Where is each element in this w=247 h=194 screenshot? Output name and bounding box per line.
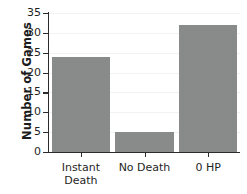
y-tick-label: 35 <box>17 7 41 18</box>
x-tick-mark <box>145 152 146 157</box>
y-tick-label: 10 <box>17 106 41 117</box>
bar <box>179 25 238 152</box>
y-tick-mark <box>43 132 48 133</box>
x-tick-label: No Death <box>113 161 177 174</box>
y-tick-label: 20 <box>17 67 41 78</box>
y-tick-mark <box>43 13 48 14</box>
x-tick-mark <box>81 152 82 157</box>
y-tick-mark <box>43 73 48 74</box>
y-tick-label: 30 <box>17 27 41 38</box>
plot-area <box>49 13 240 152</box>
y-tick-label: 0 <box>17 146 41 157</box>
y-tick-mark <box>43 53 48 54</box>
bar <box>115 132 174 152</box>
x-tick-mark <box>208 152 209 157</box>
x-tick-label: 0 HP <box>176 161 240 174</box>
y-tick-mark <box>43 112 48 113</box>
y-tick-label: 25 <box>17 47 41 58</box>
y-tick-label: 5 <box>17 126 41 137</box>
y-tick-mark <box>43 92 48 93</box>
y-tick-mark <box>43 152 48 153</box>
y-tick-mark <box>43 33 48 34</box>
x-tick-label: Instant Death <box>49 161 113 187</box>
bar <box>52 57 111 152</box>
bar-chart: Number of Games 05101520253035 Instant D… <box>0 0 247 194</box>
bar-series <box>49 13 240 152</box>
y-tick-label: 15 <box>17 86 41 97</box>
